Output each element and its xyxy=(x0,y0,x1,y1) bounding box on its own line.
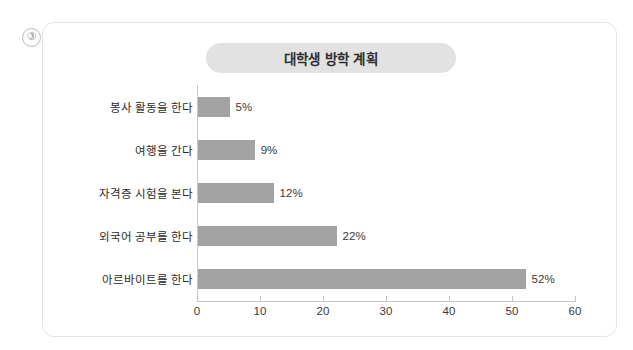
tick-label: 60 xyxy=(569,305,582,317)
tick-label: 40 xyxy=(443,305,456,317)
bar-row: 봉사 활동을 한다5% xyxy=(43,85,617,128)
bar-row: 아르바이트를 한다52% xyxy=(43,258,617,301)
x-axis-ticks: 0102030405060 xyxy=(43,301,617,335)
bar-rows: 봉사 활동을 한다5%여행을 간다9%자격증 시험을 본다12%외국어 공부를 … xyxy=(43,85,617,301)
category-label: 자격증 시험을 본다 xyxy=(99,185,193,201)
plot-area: 봉사 활동을 한다5%여행을 간다9%자격증 시험을 본다12%외국어 공부를 … xyxy=(43,85,617,335)
bar-value-label: 12% xyxy=(280,187,303,199)
bar-with-value: 22% xyxy=(198,226,366,246)
category-label: 아르바이트를 한다 xyxy=(102,271,193,287)
question-number-badge: ③ xyxy=(22,28,41,47)
tick-label: 0 xyxy=(194,305,200,317)
chart-card: 대학생 방학 계획 봉사 활동을 한다5%여행을 간다9%자격증 시험을 본다1… xyxy=(42,22,617,337)
bar-with-value: 5% xyxy=(198,97,252,117)
bar-with-value: 9% xyxy=(198,140,277,160)
tick-label: 20 xyxy=(317,305,330,317)
bar-row: 자격증 시험을 본다12% xyxy=(43,171,617,214)
category-label: 봉사 활동을 한다 xyxy=(110,99,193,115)
category-label: 여행을 간다 xyxy=(135,142,193,158)
tick-mark xyxy=(197,296,198,301)
tick-mark xyxy=(323,296,324,301)
tick-label: 50 xyxy=(506,305,519,317)
tick-mark xyxy=(386,296,387,301)
tick-label: 30 xyxy=(380,305,393,317)
chart-title-pill: 대학생 방학 계획 xyxy=(206,43,456,73)
bar-with-value: 52% xyxy=(198,269,555,289)
bar xyxy=(198,183,274,203)
tick-mark xyxy=(260,296,261,301)
bar-value-label: 5% xyxy=(236,101,253,113)
category-label: 외국어 공부를 한다 xyxy=(99,228,193,244)
bar-value-label: 22% xyxy=(343,230,366,242)
tick-mark xyxy=(449,296,450,301)
tick-label: 10 xyxy=(254,305,267,317)
chart-title: 대학생 방학 계획 xyxy=(284,48,378,68)
bar xyxy=(198,226,337,246)
bar xyxy=(198,140,255,160)
bar-row: 여행을 간다9% xyxy=(43,128,617,171)
tick-mark xyxy=(512,296,513,301)
bar xyxy=(198,97,230,117)
chart-page: ③ 대학생 방학 계획 봉사 활동을 한다5%여행을 간다9%자격증 시험을 본… xyxy=(0,0,633,350)
bar xyxy=(198,269,526,289)
bar-row: 외국어 공부를 한다22% xyxy=(43,215,617,258)
bar-value-label: 9% xyxy=(261,144,278,156)
bar-value-label: 52% xyxy=(532,273,555,285)
tick-mark xyxy=(575,296,576,301)
bar-with-value: 12% xyxy=(198,183,303,203)
